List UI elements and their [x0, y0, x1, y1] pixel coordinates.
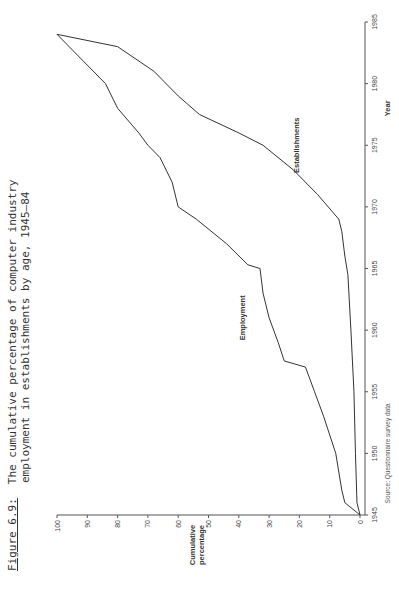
x-axis-label: Year	[383, 100, 392, 116]
source-note: Source: Questionnaire survey data	[384, 403, 392, 503]
x-tick-label: 1950	[371, 445, 378, 461]
x-tick-label: 1980	[371, 76, 378, 92]
y-tick-label: 90	[84, 520, 91, 528]
line-chart: 0102030405060708090100194519501955196019…	[0, 0, 399, 593]
y-tick-label: 80	[114, 520, 121, 528]
y-tick-label: 10	[326, 520, 333, 528]
y-tick-label: 40	[235, 520, 242, 528]
y-axis-label-line2: percentage	[197, 525, 206, 565]
series-employment	[57, 34, 360, 515]
y-tick-label: 20	[296, 520, 303, 528]
y-tick-label: 0	[357, 520, 364, 524]
employment-label: Employment	[238, 295, 247, 341]
y-tick-label: 30	[266, 520, 273, 528]
x-tick-label: 1975	[371, 137, 378, 153]
y-tick-label: 70	[144, 520, 151, 528]
x-tick-label: 1945	[371, 507, 378, 523]
y-tick-label: 60	[175, 520, 182, 528]
x-tick-label: 1985	[371, 14, 378, 30]
establishments-label: Establishments	[292, 118, 301, 173]
series-establishments	[57, 34, 360, 515]
y-tick-label: 100	[54, 520, 61, 532]
y-axis-label-line1: Cumulative	[188, 525, 197, 565]
chart-figure: Figure 6.9:The cumulative percentage of …	[0, 0, 399, 593]
y-tick-label: 50	[205, 520, 212, 528]
x-tick-label: 1960	[371, 322, 378, 338]
x-tick-label: 1965	[371, 261, 378, 277]
x-tick-label: 1955	[371, 384, 378, 400]
x-tick-label: 1970	[371, 199, 378, 215]
